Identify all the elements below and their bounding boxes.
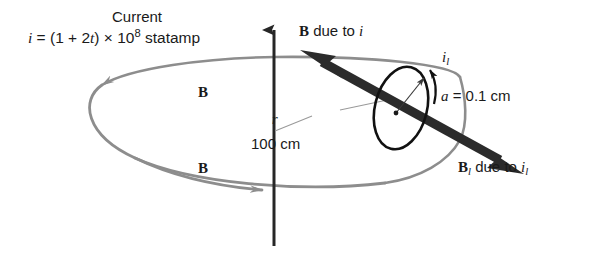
field-line-upper-arc <box>102 57 460 85</box>
equation-mid-b: ) × 10 <box>94 29 134 46</box>
radius-value-label: 100 cm <box>251 135 300 152</box>
field-label-lower: B <box>198 160 208 177</box>
equation-unit: statamp <box>141 29 200 46</box>
b-l-vector: B <box>458 159 468 175</box>
current-equation-label: i = (1 + 2t) × 108 statamp <box>28 27 200 46</box>
b-l-text: due to <box>471 158 521 175</box>
b-due-to-i-text: due to <box>309 22 359 39</box>
loop-center-dot <box>394 111 399 116</box>
b-due-to-i-label: B due to i <box>299 22 363 40</box>
field-label-upper: B <box>198 84 208 101</box>
b-due-to-i-vector: B <box>299 23 309 39</box>
field-line-lower-left-arc <box>90 85 385 187</box>
b-l-source-subscript: l <box>525 165 528 177</box>
loop-current-subscript: l <box>446 55 449 67</box>
b-l-due-to-i-l-label: Bl due to il <box>458 158 528 177</box>
loop-radius-value: = 0.1 cm <box>449 87 511 104</box>
loop-radius-label: a = 0.1 cm <box>441 87 511 105</box>
b-vector-shaft <box>322 62 500 160</box>
radius-symbol-label: r <box>272 111 278 128</box>
b-due-to-i-source: i <box>359 23 363 39</box>
equation-mid-a: = (1 + 2 <box>32 29 90 46</box>
current-title-label: Current <box>112 8 162 25</box>
loop-current-direction-arrow <box>430 70 436 104</box>
radius-leader-left <box>275 116 312 131</box>
loop-radius-symbol: a <box>441 88 449 104</box>
loop-current-label: il <box>442 48 449 67</box>
